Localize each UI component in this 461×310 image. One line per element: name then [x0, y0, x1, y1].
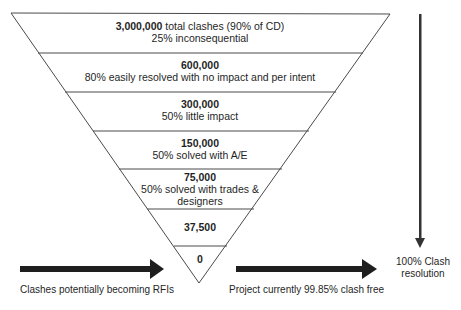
level-note: 25% inconsequential: [60, 32, 340, 44]
left-arrow-icon: [20, 259, 164, 279]
level-note: 50% solved with A/E: [120, 149, 280, 161]
level-value: 150,000: [120, 137, 280, 149]
funnel-level-5: 75,000 50% solved with trades & designer…: [140, 171, 260, 207]
level-value: 600,000: [60, 59, 340, 71]
level-value: 300,000: [100, 98, 300, 110]
down-arrow-icon: [415, 14, 425, 248]
level-value: 3,000,000: [116, 20, 163, 32]
funnel-level-6: 37,500: [160, 221, 240, 233]
right-arrow-label: Project currently 99.85% clash free: [229, 284, 384, 295]
vertical-label-line1: 100% Clash: [385, 256, 461, 268]
funnel-level-1: 3,000,000 total clashes (90% of CD) 25% …: [60, 20, 340, 44]
funnel-level-7: 0: [180, 253, 220, 265]
level-value: 0: [180, 253, 220, 265]
funnel-level-4: 150,000 50% solved with A/E: [120, 137, 280, 161]
vertical-label-line2: resolution: [385, 268, 461, 280]
right-arrow-icon: [236, 259, 377, 279]
level-value: 37,500: [160, 221, 240, 233]
funnel-level-3: 300,000 50% little impact: [100, 98, 300, 122]
left-arrow-label: Clashes potentially becoming RFIs: [20, 284, 174, 295]
level-text: total clashes (90% of CD): [165, 20, 284, 32]
level-note: 80% easily resolved with no impact and p…: [60, 71, 340, 83]
vertical-arrow-label: 100% Clash resolution: [385, 256, 461, 280]
level-note: 50% little impact: [100, 110, 300, 122]
level-value: 75,000: [140, 171, 260, 183]
funnel-level-2: 600,000 80% easily resolved with no impa…: [60, 59, 340, 83]
level-note: 50% solved with trades & designers: [140, 183, 260, 207]
